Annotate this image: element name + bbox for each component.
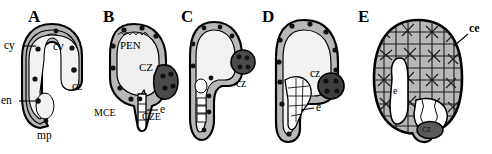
panel-a-label-en: en <box>1 95 12 107</box>
panel-a: A cy cv cz en mp <box>0 0 96 154</box>
panel-e: E <box>350 0 492 154</box>
panel-c-drawing <box>178 0 258 154</box>
figure-canvas: A cy cv cz en mp <box>0 0 492 154</box>
panel-a-label-mp: mp <box>37 130 52 142</box>
panel-d-label-e: e <box>316 102 321 114</box>
panel-b-drawing <box>96 0 178 154</box>
panel-b-label-mce: MCE <box>94 108 116 118</box>
panel-e-label-e: e <box>393 86 397 96</box>
panel-b-label-cz: CZ <box>139 62 153 73</box>
panel-e-label-ce: ce <box>469 22 480 34</box>
panel-b-label-pen: PEN <box>120 40 141 51</box>
panel-d-label-cz: cz <box>310 68 320 80</box>
panel-d-drawing <box>258 0 350 154</box>
panel-c: C cz <box>178 0 258 154</box>
panel-d: D <box>258 0 350 154</box>
panel-e-label-cz: cz <box>422 124 431 134</box>
panel-a-label-cy: cy <box>4 40 15 52</box>
panel-a-label-cv: cv <box>53 41 64 53</box>
panel-b-label-cze: CZE <box>142 112 161 122</box>
panel-b: B <box>96 0 178 154</box>
panel-a-label-cz: cz <box>72 81 82 93</box>
panel-c-label-cz: cz <box>236 78 246 90</box>
